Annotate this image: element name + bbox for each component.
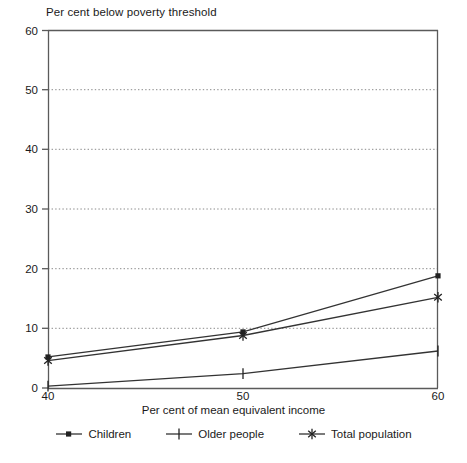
y-tick-label-50: 50 — [25, 84, 38, 96]
data-point-marker — [435, 273, 440, 278]
x-tick-label-60: 60 — [432, 390, 445, 400]
y-tick-label-40: 40 — [25, 143, 38, 155]
legend-label-total-population: Total population — [331, 428, 412, 440]
y-tick-label-10: 10 — [25, 322, 38, 334]
figure: Per cent below poverty threshold — [0, 0, 467, 463]
y-axis-ticks — [42, 31, 48, 389]
x-tick-label-50: 50 — [237, 390, 250, 400]
plus-marker-icon — [165, 428, 193, 440]
y-tick-label-30: 30 — [25, 203, 38, 215]
y-tick-label-20: 20 — [25, 263, 38, 275]
legend-label-older-people: Older people — [198, 428, 264, 440]
x-axis-title: Per cent of mean equivalent income — [0, 404, 467, 416]
y-tick-label-0: 0 — [32, 382, 38, 394]
legend-item-children[interactable]: Children — [55, 428, 131, 440]
y-tick-label-60: 60 — [25, 25, 38, 37]
chart-legend: Children Older people Total population — [0, 428, 467, 440]
asterisk-marker-icon — [298, 428, 326, 440]
square-marker-icon — [55, 428, 83, 440]
legend-item-older-people[interactable]: Older people — [165, 428, 264, 440]
legend-item-total-population[interactable]: Total population — [298, 428, 412, 440]
line-chart-plot: 60 50 40 30 20 10 0 40 50 60 — [0, 0, 467, 400]
legend-label-children: Children — [88, 428, 131, 440]
